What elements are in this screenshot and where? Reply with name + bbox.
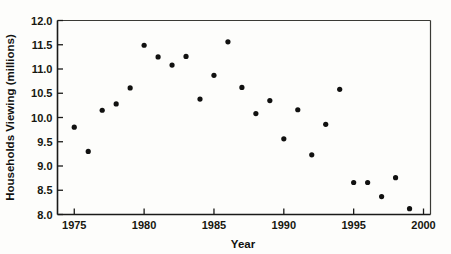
y-tick-label: 8.5 [37,184,52,196]
y-tick-label: 8.0 [37,209,52,221]
x-tick-label: 1975 [62,219,86,231]
y-tick-label: 12.0 [31,15,52,27]
y-tick-label: 11.5 [32,39,53,51]
data-point: 1984: 10.38 [197,96,202,101]
data-point: 1993: 9.86 [323,122,328,127]
x-axis-ticks: 197519801985199019952000 [62,209,436,231]
data-point: 1985: 10.87 [211,73,216,78]
data-point: 1978: 10.28 [114,101,119,106]
y-axis-title: Households Viewing (millions) [4,34,16,201]
data-point: 1991: 10.16 [295,107,300,112]
data-point: 1977: 10.15 [100,108,105,113]
data-point: 1996: 8.66 [365,180,370,185]
data-point: 1998: 8.76 [393,175,398,180]
y-tick-label: 11.0 [32,63,53,75]
x-tick-label: 1980 [132,219,156,231]
chart-canvas: 8.08.59.09.510.010.511.011.512.0 1975198… [0,0,451,254]
x-tick-label: 2000 [411,219,435,231]
data-point: 1988: 10.08 [253,111,258,116]
scatter-chart: 8.08.59.09.510.010.511.011.512.0 1975198… [0,0,451,254]
data-point: 1990: 9.56 [281,136,286,141]
y-tick-label: 9.0 [37,160,52,172]
x-tick-label: 1990 [272,219,296,231]
y-tick-label: 10.5 [31,87,52,99]
data-point: 1983: 11.26 [183,54,188,59]
data-points: 1975: 9.81976: 9.31977: 10.151978: 10.28… [72,39,412,211]
data-point: 1986: 11.56 [225,39,230,44]
data-point: 1999: 8.12 [407,206,412,211]
data-point: 1982: 11.08 [169,63,174,68]
data-point: 1976: 9.3 [86,149,91,154]
y-tick-label: 9.5 [37,136,52,148]
plot-frame [58,21,431,215]
data-point: 1981: 11.25 [155,54,160,59]
data-point: 1987: 10.62 [239,85,244,90]
data-point: 1979: 10.61 [128,85,133,90]
data-point: 1980: 11.49 [142,43,147,48]
data-point: 1995: 8.66 [351,180,356,185]
data-point: 1992: 9.23 [309,152,314,157]
data-point: 1994: 10.58 [337,87,342,92]
data-point: 1975: 9.8 [72,125,77,130]
data-point: 1997: 8.37 [379,194,384,199]
x-axis-title: Year [231,238,256,250]
y-tick-label: 10.0 [31,112,52,124]
data-point: 1989: 10.35 [267,98,272,103]
x-tick-label: 1985 [202,219,226,231]
x-tick-label: 1995 [341,219,365,231]
